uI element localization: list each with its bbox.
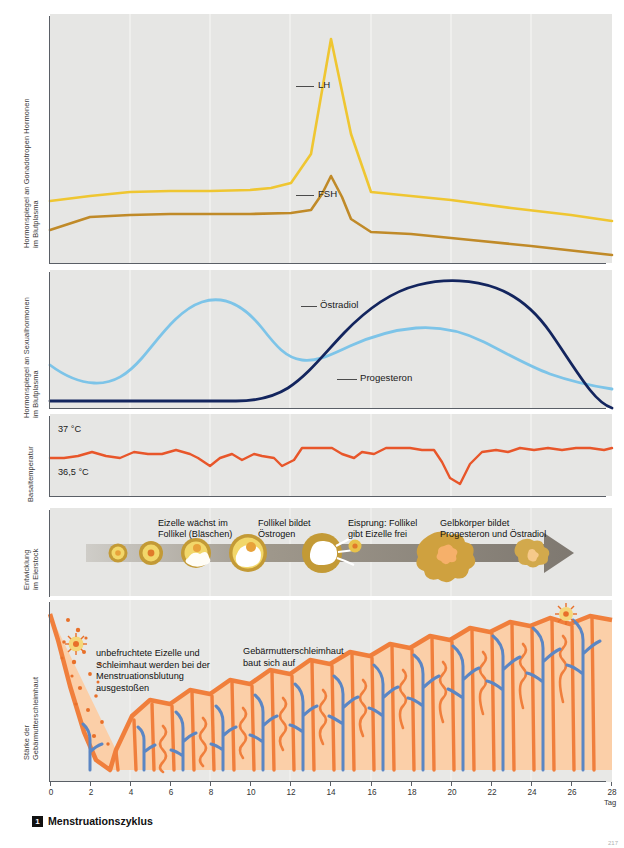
x-tick-label-8: 8 (209, 788, 214, 797)
follicle-icon-stage-3 (181, 538, 211, 568)
gonadotropin-gridlines (130, 14, 531, 263)
temperature-lower-label: 36,5 °C (58, 467, 89, 477)
x-tick-label-0: 0 (49, 788, 54, 797)
x-tick-label-6: 6 (169, 788, 174, 797)
page-number: 217 (608, 840, 618, 846)
ovary-stage-label-3: Eisprung: Follikel gibt Eizelle frei (348, 518, 417, 541)
figure-number-badge: 1 (32, 816, 43, 827)
temperature-x-axis (49, 496, 606, 497)
estradiol-leader-line (301, 306, 317, 307)
endometrium-y-axis-label: Stärke der Gebärmutterschleimhaut (22, 610, 40, 760)
sex-hormones-gridlines (130, 270, 531, 408)
x-tick-label-12: 12 (286, 788, 295, 797)
x-tick-label-18: 18 (407, 788, 416, 797)
temperature-chart (50, 414, 612, 496)
sex-hormones-y-axis-label: Hormonspiegel an Sexualhormonen im Blutp… (22, 288, 40, 418)
basal-temperature-curve (50, 448, 612, 484)
x-tick-label-24: 24 (527, 788, 536, 797)
temperature-upper-label: 37 °C (58, 424, 81, 434)
unfertilized-egg-icon-left (65, 633, 87, 655)
estradiol-series-label: Östradiol (320, 299, 358, 310)
x-tick-label-22: 22 (487, 788, 496, 797)
sex-hormones-x-axis (49, 408, 606, 409)
x-tick-label-26: 26 (567, 788, 576, 797)
x-tick-label-4: 4 (129, 788, 134, 797)
lh-series-label: LH (318, 79, 330, 90)
x-tick-label-14: 14 (326, 788, 335, 797)
gonadotropin-y-axis-label: Hormonspiegel an Gonadotropen Hormonen i… (22, 28, 40, 248)
temperature-y-axis (49, 416, 50, 497)
sex-hormones-y-axis (49, 272, 50, 409)
x-tick-label-16: 16 (367, 788, 376, 797)
gonadotropin-chart (50, 14, 612, 263)
ovary-y-axis (49, 510, 50, 597)
menstrual-cycle-figure: Hormonspiegel an Gonadotropen Hormonen i… (0, 0, 624, 848)
gonadotropin-y-axis (49, 16, 50, 264)
ovary-stage-label-1: Eizelle wächst im Follikel (Bläschen) (158, 518, 232, 541)
temperature-y-axis-label: Basaltemperatur (26, 424, 35, 502)
x-axis-unit-label: Tag (604, 798, 616, 807)
follicle-icon-stage-2 (139, 541, 163, 565)
x-tick-label-28: 28 (607, 788, 616, 797)
endometrium-buildup-note: Gebärmutterschleimhaut baut sich auf (243, 646, 344, 669)
fsh-leader-line (296, 195, 314, 196)
lh-leader-line (296, 86, 314, 87)
fertilizable-egg-icon-right (555, 603, 577, 625)
x-tick-label-2: 2 (89, 788, 94, 797)
ovary-y-axis-label: Entwicklung im Eierstock (22, 516, 40, 590)
follicle-icon-stage-1 (109, 544, 128, 563)
sex-hormones-chart (50, 270, 612, 408)
menstruation-note: unbefruchtete Eizelle und Schleimhaut we… (96, 648, 210, 694)
ovary-stage-label-4: Gelbkörper bildet Progesteron und Östrad… (440, 518, 546, 541)
gonadotropin-x-axis (49, 263, 606, 264)
estradiol-curve (50, 300, 612, 389)
endometrium-y-axis (49, 602, 50, 782)
x-tick-label-20: 20 (447, 788, 456, 797)
x-tick-label-10: 10 (246, 788, 255, 797)
fsh-series-label: FSH (318, 188, 337, 199)
ovary-stage-label-2: Follikel bildet Östrogen (258, 518, 311, 541)
progesterone-leader-line (337, 379, 357, 380)
endometrium-x-axis (49, 781, 606, 782)
progesterone-series-label: Progesteron (360, 372, 412, 383)
figure-caption: Menstruationszyklus (48, 815, 153, 827)
